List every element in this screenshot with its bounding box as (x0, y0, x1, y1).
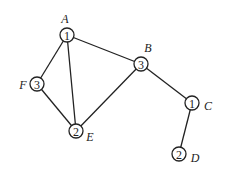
edge-a-f (37, 35, 67, 84)
node-value: 2 (176, 148, 182, 162)
node-label: C (204, 99, 213, 113)
node-label: B (144, 41, 152, 55)
edge-c-d (179, 103, 192, 154)
node-e: 2E (69, 124, 94, 144)
node-label: D (190, 151, 200, 165)
node-label: A (60, 12, 69, 26)
node-b: 3B (134, 41, 152, 72)
edge-b-c (141, 64, 192, 103)
node-value: 3 (138, 58, 144, 72)
node-label: F (18, 78, 27, 92)
node-d: 2D (172, 147, 200, 165)
nodes-group: 1A3B1C2D2E3F (18, 12, 213, 165)
edge-e-b (76, 64, 141, 131)
node-c: 1C (185, 96, 213, 113)
node-value: 1 (64, 29, 70, 43)
edge-a-e (67, 35, 76, 131)
node-value: 2 (73, 125, 79, 139)
node-value: 1 (189, 97, 195, 111)
edge-a-b (67, 35, 141, 64)
edge-f-e (37, 84, 76, 131)
node-f: 3F (18, 77, 44, 92)
node-label: E (85, 130, 94, 144)
node-a: 1A (60, 12, 74, 43)
node-value: 3 (34, 78, 40, 92)
graph-diagram: 1A3B1C2D2E3F (0, 0, 227, 175)
edges-group (37, 35, 192, 154)
